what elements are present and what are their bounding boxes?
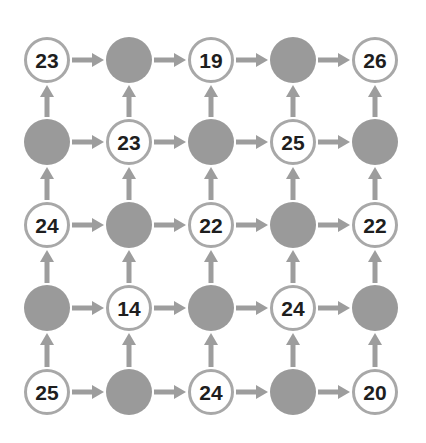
filled-node bbox=[106, 369, 152, 415]
filled-node bbox=[270, 202, 316, 248]
node-value: 24 bbox=[199, 381, 223, 404]
arrow-right-icon bbox=[72, 53, 104, 67]
arrow-right-icon bbox=[154, 385, 186, 399]
arrow-right-icon bbox=[318, 53, 350, 67]
number-node: 26 bbox=[354, 39, 397, 82]
arrow-right-icon bbox=[236, 301, 268, 315]
arrow-up-icon bbox=[40, 85, 54, 117]
arrow-right-icon bbox=[318, 385, 350, 399]
arrow-right-icon bbox=[154, 53, 186, 67]
filled-node bbox=[188, 285, 234, 331]
number-node: 24 bbox=[272, 287, 315, 330]
number-node: 14 bbox=[108, 287, 151, 330]
arrow-right-icon bbox=[236, 218, 268, 232]
node-value: 26 bbox=[363, 49, 386, 72]
filled-node bbox=[270, 37, 316, 83]
arrow-up-icon bbox=[122, 250, 136, 283]
filled-node bbox=[188, 119, 234, 165]
arrow-right-icon bbox=[72, 135, 104, 149]
arrow-up-icon bbox=[204, 333, 218, 367]
arrow-up-icon bbox=[286, 333, 300, 367]
filled-node bbox=[106, 37, 152, 83]
arrow-right-icon bbox=[72, 385, 104, 399]
arrow-up-icon bbox=[286, 85, 300, 117]
arrow-up-icon bbox=[122, 167, 136, 200]
number-node: 24 bbox=[190, 371, 233, 414]
arrow-up-icon bbox=[368, 333, 382, 367]
arrow-up-icon bbox=[368, 85, 382, 117]
node-value: 24 bbox=[281, 297, 305, 320]
number-node: 24 bbox=[26, 204, 69, 247]
node-value: 23 bbox=[35, 49, 58, 72]
arrow-right-icon bbox=[154, 218, 186, 232]
filled-node bbox=[352, 119, 398, 165]
arrow-right-icon bbox=[236, 135, 268, 149]
arrow-up-icon bbox=[204, 250, 218, 283]
number-node: 25 bbox=[272, 121, 315, 164]
arrow-right-icon bbox=[318, 301, 350, 315]
filled-node bbox=[270, 369, 316, 415]
arrow-right-icon bbox=[318, 218, 350, 232]
filled-node bbox=[106, 202, 152, 248]
arrow-up-icon bbox=[286, 250, 300, 283]
number-node: 22 bbox=[354, 204, 397, 247]
arrow-up-icon bbox=[368, 250, 382, 283]
arrow-right-icon bbox=[154, 135, 186, 149]
arrow-right-icon bbox=[72, 301, 104, 315]
arrow-up-icon bbox=[368, 167, 382, 200]
node-value: 14 bbox=[117, 297, 141, 320]
number-node: 20 bbox=[354, 371, 397, 414]
node-value: 23 bbox=[117, 131, 140, 154]
filled-node bbox=[24, 285, 70, 331]
arrow-up-icon bbox=[286, 167, 300, 200]
node-value: 25 bbox=[35, 381, 59, 404]
number-node: 25 bbox=[26, 371, 69, 414]
arrow-right-icon bbox=[318, 135, 350, 149]
arrow-up-icon bbox=[122, 85, 136, 117]
node-value: 22 bbox=[363, 214, 386, 237]
arrow-up-icon bbox=[204, 167, 218, 200]
node-value: 25 bbox=[281, 131, 305, 154]
arrow-right-icon bbox=[72, 218, 104, 232]
node-value: 22 bbox=[199, 214, 222, 237]
arrow-up-icon bbox=[40, 250, 54, 283]
node-value: 24 bbox=[35, 214, 59, 237]
arrow-up-icon bbox=[122, 333, 136, 367]
number-node: 23 bbox=[108, 121, 151, 164]
arrow-right-icon bbox=[154, 301, 186, 315]
number-node: 22 bbox=[190, 204, 233, 247]
node-value: 20 bbox=[363, 381, 386, 404]
number-node: 23 bbox=[26, 39, 69, 82]
filled-node bbox=[24, 119, 70, 165]
arrow-right-icon bbox=[236, 385, 268, 399]
filled-node bbox=[352, 285, 398, 331]
number-node: 19 bbox=[190, 39, 233, 82]
node-value: 19 bbox=[199, 49, 222, 72]
arrow-right-icon bbox=[236, 53, 268, 67]
arrow-up-icon bbox=[40, 167, 54, 200]
arrow-up-icon bbox=[204, 85, 218, 117]
arrow-up-icon bbox=[40, 333, 54, 367]
grid-diagram: 23192623252422221424252420 bbox=[0, 0, 426, 443]
